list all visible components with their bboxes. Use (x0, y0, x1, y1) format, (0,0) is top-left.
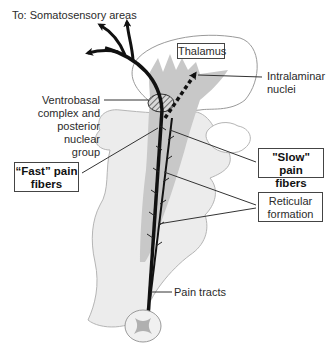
ventrobasal-line1: Ventrobasal (6, 94, 100, 107)
thalamus-label: Thalamus (177, 43, 225, 59)
label-pain-tracts: Pain tracts (174, 286, 226, 299)
ventrobasal-line2: complex and (6, 107, 100, 120)
ventrobasal-line3: posterior (6, 120, 100, 133)
fast-line1: “Fast” pain (15, 165, 78, 178)
fiber-branch-3 (88, 51, 118, 53)
slow-fibers-box: "Slow" pain fibers (258, 148, 324, 178)
reticular-line2: formation (259, 208, 322, 221)
reticular-line1: Reticular (259, 195, 322, 208)
label-ventrobasal: Ventrobasal complex and posterior nuclea… (6, 94, 100, 159)
ventrobasal-line5: group (6, 146, 100, 159)
fast-line2: fibers (15, 178, 78, 191)
slow-line2: fibers (259, 177, 323, 190)
intralaminar-line2: nuclei (267, 83, 325, 96)
ventrobasal-line4: nuclear (6, 133, 100, 146)
fiber-branch-2 (127, 22, 133, 60)
label-intralaminar: Intralaminar nuclei (267, 70, 325, 96)
intralaminar-line1: Intralaminar (267, 70, 325, 83)
fast-fibers-box: “Fast” pain fibers (14, 162, 79, 192)
thalamus-text: Thalamus (178, 45, 226, 57)
slow-line1: "Slow" pain (259, 151, 323, 177)
reticular-box: Reticular formation (258, 192, 323, 222)
label-somatosensory: To: Somatosensory areas (12, 9, 137, 22)
